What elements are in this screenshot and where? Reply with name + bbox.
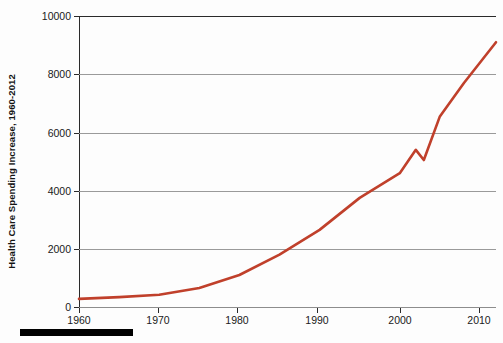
y-axis-title: Health Care Spending Increase, 1960-2012	[0, 0, 22, 343]
x-tick-label-2010: 2010	[459, 314, 499, 326]
y-tick-label-10000: 10000	[25, 10, 71, 22]
x-tick-label-2000: 2000	[380, 314, 420, 326]
x-tick-label-1970: 1970	[138, 314, 178, 326]
y-tick-label-4000: 4000	[25, 185, 71, 197]
y-tick-label-6000: 6000	[25, 127, 71, 139]
x-tick-label-1980: 1980	[217, 314, 257, 326]
x-tick-mark-2010	[479, 308, 480, 313]
x-tick-mark-1980	[237, 308, 238, 313]
x-tick-mark-1990	[317, 308, 318, 313]
y-tick-mark-4000	[74, 191, 79, 192]
y-tick-mark-10000	[74, 16, 79, 17]
gridline-0	[79, 307, 496, 308]
y-tick-mark-8000	[74, 74, 79, 75]
plot-area	[79, 16, 496, 307]
y-tick-mark-2000	[74, 249, 79, 250]
y-tick-label-0: 0	[25, 301, 71, 313]
gridline-10000	[79, 16, 496, 17]
x-tick-label-1960: 1960	[59, 314, 99, 326]
black-rule	[20, 329, 133, 336]
gridline-4000	[79, 191, 496, 192]
y-tick-label-8000: 8000	[25, 68, 71, 80]
chart-figure: Health Care Spending Increase, 1960-2012…	[0, 0, 503, 343]
x-tick-mark-1960	[79, 308, 80, 313]
gridline-2000	[79, 249, 496, 250]
gridline-8000	[79, 74, 496, 75]
x-tick-label-1990: 1990	[297, 314, 337, 326]
gridline-6000	[79, 133, 496, 134]
x-tick-mark-1970	[158, 308, 159, 313]
x-tick-mark-2000	[400, 308, 401, 313]
y-tick-mark-6000	[74, 133, 79, 134]
y-tick-label-2000: 2000	[25, 243, 71, 255]
